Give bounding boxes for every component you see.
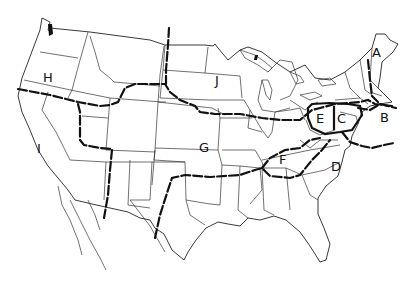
region-label-d: D: [331, 159, 341, 174]
region-label-i: I: [37, 141, 41, 156]
region-label-j: J: [214, 73, 219, 88]
great-lakes: [48, 24, 336, 100]
region-label-e: E: [316, 111, 324, 126]
region-boundaries: [18, 28, 396, 238]
region-label-b: B: [380, 110, 389, 125]
region-labels: A B C D E F G H I J: [37, 45, 389, 174]
region-label-f: F: [279, 152, 286, 167]
region-label-g: G: [199, 140, 209, 155]
region-label-a: A: [372, 45, 381, 60]
region-label-h: H: [43, 70, 53, 85]
us-region-map: A B C D E F G H I J: [0, 0, 419, 281]
region-label-c: C: [337, 111, 346, 126]
